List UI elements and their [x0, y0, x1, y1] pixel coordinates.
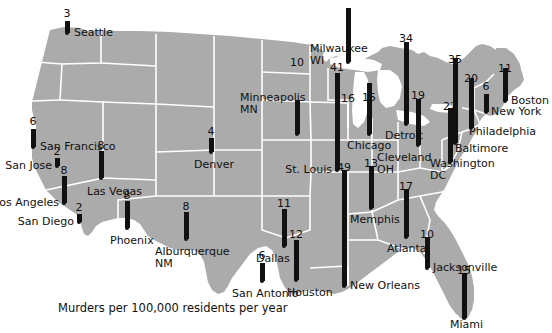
value-bar [294, 240, 299, 280]
value-bar [469, 78, 474, 128]
city-name-label: Memphis [350, 214, 400, 226]
city-dot [404, 122, 408, 126]
value-bar [416, 99, 421, 145]
value-label: 10 [420, 229, 434, 240]
value-label: 6 [259, 250, 266, 261]
value-bar [282, 209, 287, 246]
value-label: 6 [30, 116, 37, 127]
city-name-label: Baltimore [455, 143, 508, 155]
value-label: 20 [464, 73, 478, 84]
city-dot [295, 132, 299, 136]
city-name-label: New Orleans [350, 280, 420, 292]
value-label: 17 [399, 181, 413, 192]
city-name-label: San Jose [5, 160, 52, 172]
value-label: 11 [498, 63, 512, 74]
value-bar [184, 212, 189, 239]
city-dot [484, 110, 488, 114]
value-bar [99, 151, 104, 178]
city-name-label: Houston [287, 287, 333, 299]
city-dot [65, 31, 69, 35]
value-label: 3 [64, 8, 71, 19]
value-label: 49 [337, 162, 351, 173]
city-dot [209, 150, 213, 154]
value-bar [62, 176, 67, 203]
city-name-label: WashingtonDC [430, 158, 495, 182]
value-bar [342, 170, 347, 286]
city-dot [77, 220, 81, 224]
city-dot [31, 145, 35, 149]
city-dot [260, 279, 264, 283]
value-label: 41 [330, 62, 344, 73]
figure-caption: Murders per 100,000 residents per year [58, 301, 287, 315]
city-dot [62, 201, 66, 205]
city-dot [184, 237, 188, 241]
value-label: 6 [483, 81, 490, 92]
city-name-label: MinneapolisMN [240, 92, 306, 116]
city-dot [99, 176, 103, 180]
value-label: 15 [362, 92, 376, 103]
value-label: 8 [98, 140, 105, 151]
city-dot [282, 244, 286, 248]
city-dot [367, 132, 371, 136]
value-bar [404, 42, 409, 124]
value-label: 35 [448, 54, 462, 65]
city-name-label: St. Louis [285, 164, 332, 176]
value-label: 2 [76, 202, 83, 213]
value-bar [335, 73, 340, 170]
city-name-label: Boston [511, 95, 549, 107]
value-bar [369, 166, 374, 208]
city-dot [369, 206, 373, 210]
value-label: 11 [277, 198, 291, 209]
value-label: 16 [341, 93, 355, 104]
value-label: 19 [411, 90, 425, 101]
value-label: 10 [290, 57, 304, 68]
city-dot [503, 99, 507, 103]
value-bar [462, 273, 467, 318]
value-label: 8 [124, 190, 131, 201]
city-dot [404, 235, 408, 239]
value-label: 34 [399, 33, 413, 44]
city-name-label: San Diego [18, 216, 74, 228]
city-name-label: Miami [450, 319, 483, 331]
city-dot [425, 266, 429, 270]
value-label: 12 [289, 229, 303, 240]
city-name-label: New York [491, 106, 541, 118]
value-label: 8 [183, 201, 190, 212]
value-label: 4 [208, 126, 215, 137]
city-name-label: Las Vegas [87, 186, 142, 198]
city-name-label: AlburquerqueNM [155, 246, 230, 270]
city-dot [55, 164, 59, 168]
city-dot [416, 143, 420, 147]
city-name-label: Phoenix [110, 235, 154, 247]
city-dot [125, 226, 129, 230]
value-label: 8 [61, 165, 68, 176]
value-bar [404, 189, 409, 237]
city-name-label: Denver [194, 159, 234, 171]
figure-canvas: 3Seattle6San Francisco2San Jose8Los Ange… [0, 0, 552, 333]
city-name-label: Philadelphia [469, 126, 536, 138]
city-name-label: ClevelandOH [377, 152, 432, 176]
city-name-label: Atlanta [387, 243, 426, 255]
value-bar [425, 237, 430, 268]
value-label: 2 [54, 146, 61, 157]
city-dot [294, 278, 298, 282]
value-label: 15 [457, 265, 471, 276]
value-label: 13 [364, 158, 378, 169]
city-name-label: Los Angeles [0, 197, 59, 209]
value-bar [125, 201, 130, 228]
value-bar [453, 58, 458, 143]
city-dot [342, 284, 346, 288]
city-name-label: Seattle [74, 27, 113, 39]
